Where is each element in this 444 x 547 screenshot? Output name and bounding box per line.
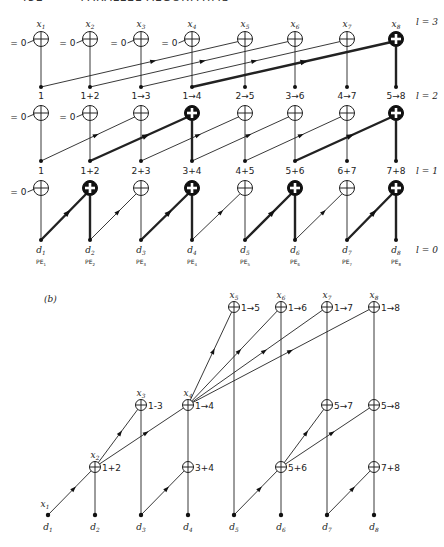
adder-node (183, 400, 194, 411)
zero-input-label: = 0 (10, 187, 26, 197)
adder-node (136, 400, 147, 411)
data-edge (245, 114, 347, 161)
partial-sum-label: 7+8 (387, 166, 406, 176)
arrowhead-icon (245, 134, 251, 138)
zero-input-label: = 0 (161, 38, 177, 48)
processor-label: PE1 (36, 258, 46, 267)
adder-node-active (288, 181, 303, 196)
processor-dot (293, 159, 297, 163)
adder-node (134, 181, 149, 196)
processor-dot (293, 85, 297, 89)
data-edge (41, 114, 141, 161)
processor-dot (190, 159, 194, 163)
output-label: x8 (392, 19, 401, 30)
data-edge (95, 405, 141, 467)
processor-label: PE6 (290, 258, 300, 267)
data-label: d2 (85, 245, 95, 256)
partial-sum-label: 1→3 (132, 91, 151, 101)
partial-sum-label: 5→8 (387, 91, 406, 101)
partial-sum-label: 5→7 (334, 401, 353, 411)
processor-dot (190, 238, 194, 242)
data-edge (281, 405, 327, 467)
processor-dot (325, 513, 329, 517)
partial-sum-label: 7+8 (381, 463, 400, 473)
adder-node (238, 106, 253, 121)
data-label: d4 (187, 245, 197, 256)
partial-sum-label: 6+7 (338, 166, 357, 176)
data-label: d3 (136, 522, 146, 533)
adder-node (238, 32, 253, 47)
adder-node (322, 400, 333, 411)
output-label: x3 (137, 388, 146, 399)
zero-input-label: = 0 (110, 38, 126, 48)
output-label: x5 (230, 290, 239, 301)
adder-node (34, 181, 49, 196)
adder-node-active (185, 181, 200, 196)
processor-dot (139, 85, 143, 89)
processor-dot (279, 513, 283, 517)
output-label: x5 (241, 19, 250, 30)
partial-sum-label: 3+4 (195, 463, 214, 473)
adder-node (134, 106, 149, 121)
partial-sum-label: 3→6 (286, 91, 305, 101)
processor-dot (93, 513, 97, 517)
output-label: x6 (277, 290, 286, 301)
data-label: d7 (342, 245, 352, 256)
adder-node (340, 181, 355, 196)
data-label: d8 (391, 245, 401, 256)
processor-dot (345, 238, 349, 242)
output-label: x6 (291, 19, 300, 30)
data-edge (295, 115, 396, 161)
processor-dot (88, 238, 92, 242)
partial-sum-label: 1→6 (288, 303, 307, 313)
output-label: x2 (91, 450, 100, 461)
adder-node (322, 302, 333, 313)
adder-node-active (389, 181, 404, 196)
data-label: d8 (369, 522, 379, 533)
partial-sum-label: 4→7 (338, 91, 357, 101)
output-label: x8 (370, 290, 379, 301)
processor-dot (394, 85, 398, 89)
partial-sum-label: 1→7 (334, 303, 353, 313)
processor-dot (39, 238, 43, 242)
processor-dot (88, 159, 92, 163)
processor-dot (394, 238, 398, 242)
zero-input-label: = 0 (59, 38, 75, 48)
data-edge (95, 405, 188, 467)
processor-dot (88, 85, 92, 89)
adder-node-active (185, 106, 200, 121)
processor-label: PE4 (187, 258, 197, 267)
processor-label: PE3 (136, 258, 146, 267)
partial-sum-label: 1 (38, 91, 44, 101)
processor-label: PE7 (342, 258, 352, 267)
data-label: d6 (290, 245, 300, 256)
adder-node (288, 106, 303, 121)
zero-input-label: = 0 (59, 112, 75, 122)
arrowhead-icon (287, 350, 293, 355)
level-label: l = 2 (416, 91, 438, 101)
processor-dot (186, 513, 190, 517)
arrowhead-icon (328, 431, 334, 436)
partial-sum-label: 4+5 (236, 166, 255, 176)
adder-node (83, 32, 98, 47)
adder-node (185, 32, 200, 47)
data-edge (188, 307, 234, 405)
prefix-sum-diagram: = 01x1= 01+2x2= 01→3x3= 01→4x42→5x53→6x6… (0, 0, 444, 547)
processor-dot (39, 159, 43, 163)
processor-dot (46, 513, 50, 517)
arrowhead-icon (195, 134, 201, 138)
output-label: x4 (184, 388, 193, 399)
data-edge (192, 189, 245, 240)
processor-label: PE2 (85, 258, 95, 267)
processor-dot (372, 513, 376, 517)
partial-sum-label: 1→4 (195, 401, 214, 411)
adder-node (238, 181, 253, 196)
processor-dot (139, 159, 143, 163)
adder-node (340, 106, 355, 121)
level-row-2: = 0d1PE1d2PE2d3PE3d4PE4d5PE5d6PE6d7PE7d8… (10, 181, 438, 268)
level-label: l = 1 (416, 166, 438, 176)
processor-label: PE5 (240, 258, 250, 267)
adder-node (369, 462, 380, 473)
part-b-tree-scan: (b)d1d2d3d4d5d6d7d8x11+2x23+45+67+81-3x3… (41, 290, 401, 533)
adder-node (134, 32, 149, 47)
